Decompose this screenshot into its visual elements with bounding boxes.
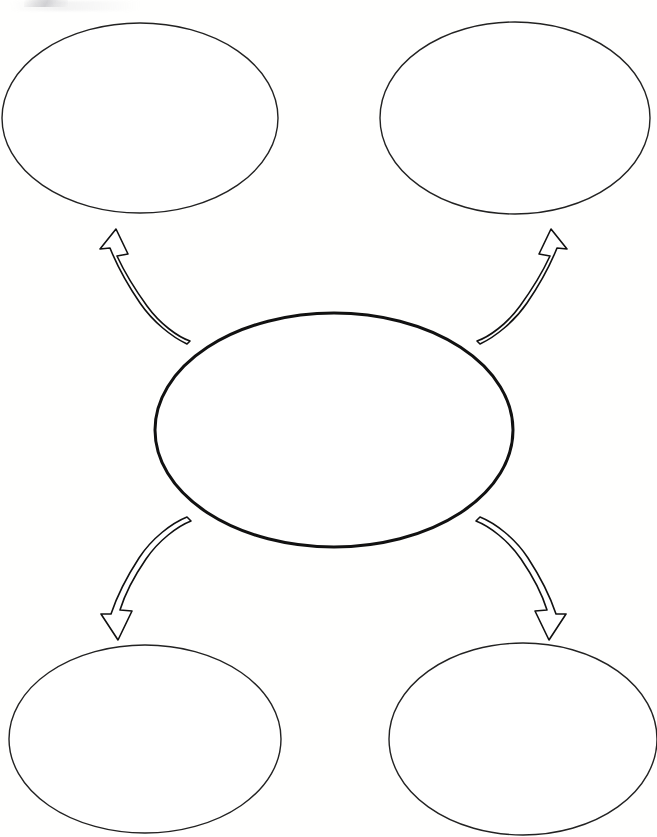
node-top-left[interactable] <box>2 23 278 213</box>
connector-center-to-bottom-right[interactable] <box>476 517 566 640</box>
arrow-down-right-shape <box>476 517 566 640</box>
node-center-ellipse[interactable] <box>155 313 513 547</box>
node-top-right-ellipse[interactable] <box>380 22 650 214</box>
connector-center-to-top-left[interactable] <box>100 229 190 344</box>
arrow-down-left-shape <box>101 517 191 640</box>
worksheet-page <box>0 0 657 837</box>
concept-map-diagram <box>0 0 657 837</box>
node-top-right[interactable] <box>380 22 650 214</box>
node-center[interactable] <box>155 313 513 547</box>
node-bottom-right-ellipse[interactable] <box>389 643 657 835</box>
arrow-up-left-shape <box>100 229 190 344</box>
connector-center-to-bottom-left[interactable] <box>101 517 191 640</box>
node-bottom-left-ellipse[interactable] <box>9 645 281 833</box>
node-bottom-left[interactable] <box>9 645 281 833</box>
node-bottom-right[interactable] <box>389 643 657 835</box>
connector-center-to-top-right[interactable] <box>477 229 567 344</box>
arrow-up-right-shape <box>477 229 567 344</box>
node-top-left-ellipse[interactable] <box>2 23 278 213</box>
